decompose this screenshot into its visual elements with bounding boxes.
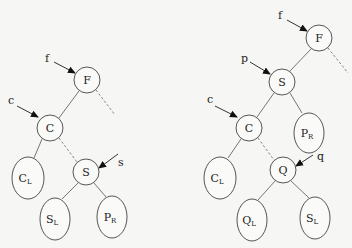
edge-S-PR (290, 93, 302, 113)
node-F: F (74, 67, 100, 93)
node-CL: CL (204, 157, 236, 199)
pointer-q-label: q (317, 150, 324, 163)
node-Q: Q (270, 157, 296, 183)
edge-F-S (290, 49, 311, 71)
pointer-s-label: s (118, 156, 124, 169)
edge-S-PR (94, 183, 106, 197)
pointer-p-label: p (241, 52, 248, 65)
node-C: C (37, 115, 63, 141)
node-QL: QL (237, 199, 267, 241)
pointer-c-label: c (8, 94, 14, 107)
edge-S-SL (62, 183, 78, 199)
edge-C-S-dashed (59, 138, 77, 162)
node-SL: SL (40, 198, 70, 240)
pointer-f-arrow (54, 62, 75, 73)
edge-S-C (257, 93, 274, 117)
svg-text:C: C (245, 122, 253, 135)
svg-text:F: F (315, 32, 323, 45)
pointer-c-arrow (17, 106, 38, 117)
svg-text:Q: Q (278, 164, 287, 177)
edge-C-CL (34, 139, 42, 158)
svg-text:C: C (46, 122, 54, 135)
edge-F-C (59, 91, 79, 118)
node-S: S (269, 69, 295, 95)
edge-C-CL (228, 139, 241, 158)
node-CL: CL (12, 157, 44, 199)
pointer-f-label: f (278, 9, 283, 22)
edge-F-right-dashed (328, 48, 348, 73)
pointer-p-arrow (250, 62, 270, 74)
pointer-f-arrow (287, 20, 307, 31)
node-PR: PR (294, 113, 324, 153)
edge-F-right-dashed (96, 90, 115, 115)
edge-C-Q-dashed (258, 138, 274, 160)
pointer-c-label: c (207, 93, 213, 106)
pointer-s-arrow (99, 154, 118, 168)
tree-diagram: f c s F C CL S SL PR (0, 0, 352, 248)
svg-text:S: S (278, 76, 286, 89)
svg-text:F: F (83, 74, 91, 87)
svg-text:S: S (82, 166, 90, 179)
node-C: C (236, 115, 262, 141)
left-tree: f c s F C CL S SL PR (8, 52, 127, 240)
pointer-c-arrow (215, 106, 237, 117)
edge-Q-QL (258, 181, 275, 200)
pointer-f-label: f (45, 52, 50, 65)
node-SL: SL (300, 197, 330, 239)
pointer-q-arrow (296, 155, 313, 166)
node-PR: PR (97, 196, 127, 238)
node-F: F (306, 25, 332, 51)
node-S: S (73, 159, 99, 185)
diagram-canvas: f c s F C CL S SL PR (0, 0, 352, 248)
right-tree: f p c q F S C PR CL Q (204, 9, 348, 241)
edge-Q-SL (291, 181, 309, 198)
